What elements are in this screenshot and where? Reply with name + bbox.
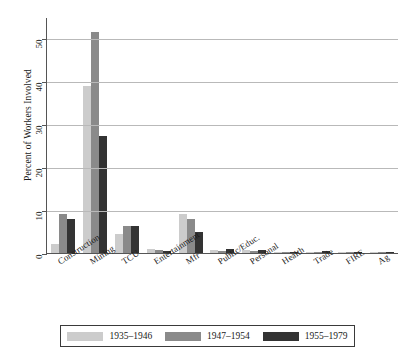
bar-group — [334, 18, 366, 253]
bar — [99, 136, 107, 253]
bar — [91, 32, 99, 253]
bar — [115, 234, 123, 253]
legend-item: 1955–1979 — [263, 331, 348, 341]
bar-group — [143, 18, 175, 253]
x-axis-label-cell: FIRE — [334, 256, 366, 306]
y-axis-tick-label: 50 — [35, 40, 44, 49]
bar — [370, 252, 378, 253]
bar-group — [47, 18, 79, 253]
chart-legend: 1935–19461947–19541955–1979 — [60, 325, 355, 347]
legend-label: 1947–1954 — [207, 331, 250, 341]
bar-group — [111, 18, 143, 253]
x-axis-label-cell: Mfr — [174, 256, 206, 306]
bar — [147, 249, 155, 253]
bar — [274, 252, 282, 253]
bar-chart-figure: Percent of Workers Involved 01020304050 … — [0, 0, 414, 356]
bar — [51, 244, 59, 253]
bar-group — [175, 18, 207, 253]
x-axis-label-cell: Construction — [46, 256, 78, 306]
x-axis-label-cell: Entertainment — [142, 256, 174, 306]
bar-group — [302, 18, 334, 253]
x-axis-labels: ConstructionMiningTCUEntertainmentMfrPub… — [46, 256, 398, 306]
y-gridline — [47, 82, 398, 83]
legend-swatch — [263, 332, 299, 341]
bar — [123, 226, 131, 253]
x-axis-label-cell: Ag — [366, 256, 398, 306]
y-gridline — [47, 39, 398, 40]
bar — [83, 86, 91, 253]
bar-group — [238, 18, 270, 253]
legend-swatch — [165, 332, 201, 341]
legend-swatch — [67, 332, 103, 341]
y-axis-tick-label: 20 — [35, 169, 44, 178]
y-axis-title: Percent of Workers Involved — [23, 35, 33, 215]
x-axis-label-cell: Public/Educ. — [206, 256, 238, 306]
bar — [306, 252, 314, 253]
y-axis-tick-label: 0 — [35, 255, 44, 260]
bar — [210, 250, 218, 253]
bar-group — [79, 18, 111, 253]
y-axis-tick-label: 10 — [35, 212, 44, 221]
y-gridline — [47, 125, 398, 126]
bar — [386, 252, 394, 253]
bar-groups — [47, 18, 398, 253]
legend-item: 1947–1954 — [165, 331, 250, 341]
x-axis-label-cell: Mining — [78, 256, 110, 306]
legend-label: 1955–1979 — [305, 331, 348, 341]
plot-area: 01020304050 — [46, 18, 398, 254]
bar — [338, 252, 346, 253]
bar-group — [366, 18, 398, 253]
legend-item: 1935–1946 — [67, 331, 152, 341]
bar-group — [270, 18, 302, 253]
legend-label: 1935–1946 — [109, 331, 152, 341]
x-axis-label-cell: Personal — [238, 256, 270, 306]
y-gridline — [47, 211, 398, 212]
y-gridline — [47, 168, 398, 169]
y-axis-tick-label: 30 — [35, 126, 44, 135]
x-axis-tick-label: Ag — [376, 252, 391, 266]
x-axis-label-cell: Trade — [302, 256, 334, 306]
bar — [59, 214, 67, 253]
x-axis-label-cell: TCU — [110, 256, 142, 306]
y-axis-tick-label: 40 — [35, 83, 44, 92]
x-axis-label-cell: Health — [270, 256, 302, 306]
bar-group — [207, 18, 239, 253]
